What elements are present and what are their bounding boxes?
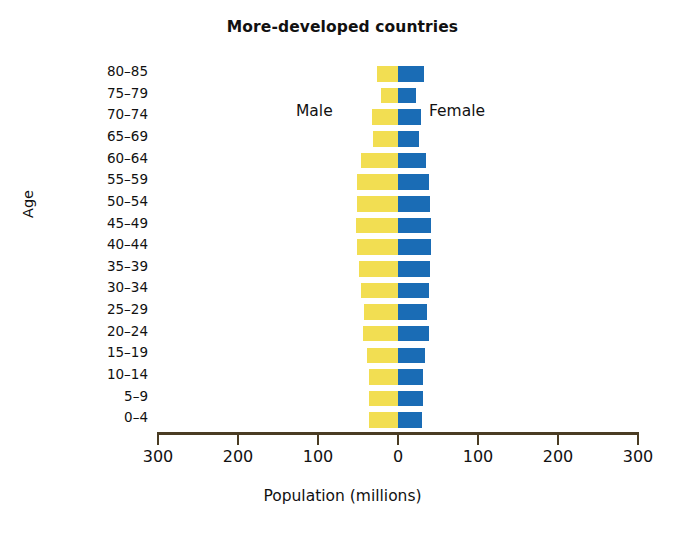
bar-row [158,410,638,432]
y-axis-tick-label: 15–19 [52,344,148,360]
bar-male [358,260,398,278]
y-axis-tick-label: 20–24 [52,323,148,339]
bar-row [158,389,638,411]
y-axis-tick-label: 10–14 [52,366,148,382]
bar-row [158,129,638,151]
bar-male [356,238,398,256]
bar-male [360,152,398,170]
bar-male [368,390,398,408]
x-axis-tick [157,432,159,445]
bar-row [158,280,638,302]
bar-male [355,217,398,235]
bar-female [398,195,431,213]
x-axis-tick-label: 300 [598,447,678,466]
x-axis-title: Population (millions) [0,487,685,505]
bar-male [380,87,398,105]
x-axis-tick [557,432,559,445]
y-axis-tick-label: 0–4 [52,409,148,425]
y-axis-tick-label: 35–39 [52,258,148,274]
bar-male [368,368,398,386]
x-axis-tick-label: 0 [358,447,438,466]
bar-row [158,64,638,86]
bar-female [398,108,422,126]
x-axis-tick [397,432,399,445]
bar-female [398,238,432,256]
y-axis-tick-label: 60–64 [52,150,148,166]
bar-male [368,411,398,429]
bar-female [398,303,428,321]
x-axis-tick-label: 100 [278,447,358,466]
x-axis-tick-label: 200 [198,447,278,466]
y-axis-tick-label: 65–69 [52,128,148,144]
bar-male [362,325,398,343]
bar-female [398,65,425,83]
bar-female [398,325,430,343]
bar-male [363,303,398,321]
bar-female [398,217,432,235]
bar-row [158,194,638,216]
y-axis-tick-label: 45–49 [52,215,148,231]
bar-row [158,107,638,129]
bar-row [158,86,638,108]
bar-male [371,108,398,126]
bar-male [360,282,398,300]
population-pyramid-chart: More-developed countries Age 80–8575–797… [0,0,685,540]
y-axis-tick-labels: 80–8575–7970–7465–6960–6455–5950–5445–49… [0,64,148,432]
bar-female [398,173,430,191]
x-axis-tick [237,432,239,445]
y-axis-tick-label: 70–74 [52,106,148,122]
bar-female [398,347,426,365]
y-axis-tick-label: 30–34 [52,279,148,295]
x-axis-tick [477,432,479,445]
bar-female [398,411,423,429]
y-axis-tick-label: 75–79 [52,85,148,101]
bar-male [372,130,398,148]
bar-row [158,237,638,259]
bar-row [158,367,638,389]
series-label-female: Female [429,102,485,120]
x-axis-tick-label: 200 [518,447,598,466]
y-axis-tick-label: 80–85 [52,63,148,79]
y-axis-tick-label: 5–9 [52,388,148,404]
bar-female [398,87,417,105]
bar-female [398,260,431,278]
bar-female [398,368,424,386]
chart-title: More-developed countries [0,18,685,36]
x-axis-tick [317,432,319,445]
series-label-male: Male [296,102,333,120]
bar-female [398,282,430,300]
y-axis-tick-label: 55–59 [52,171,148,187]
x-axis-tick-label: 300 [118,447,198,466]
y-axis-tick-label: 50–54 [52,193,148,209]
bar-row [158,216,638,238]
bar-row [158,302,638,324]
y-axis-tick-label: 25–29 [52,301,148,317]
bar-male [376,65,398,83]
y-axis-tick-label: 40–44 [52,236,148,252]
bar-female [398,152,427,170]
x-axis-tick-label: 100 [438,447,518,466]
bar-male [356,173,398,191]
bar-row [158,259,638,281]
bar-male [366,347,398,365]
bar-row [158,345,638,367]
x-axis-tick [637,432,639,445]
bar-male [356,195,398,213]
bar-female [398,390,424,408]
bar-row [158,172,638,194]
bar-row [158,324,638,346]
bar-row [158,151,638,173]
plot-area [158,64,638,432]
bar-female [398,130,420,148]
